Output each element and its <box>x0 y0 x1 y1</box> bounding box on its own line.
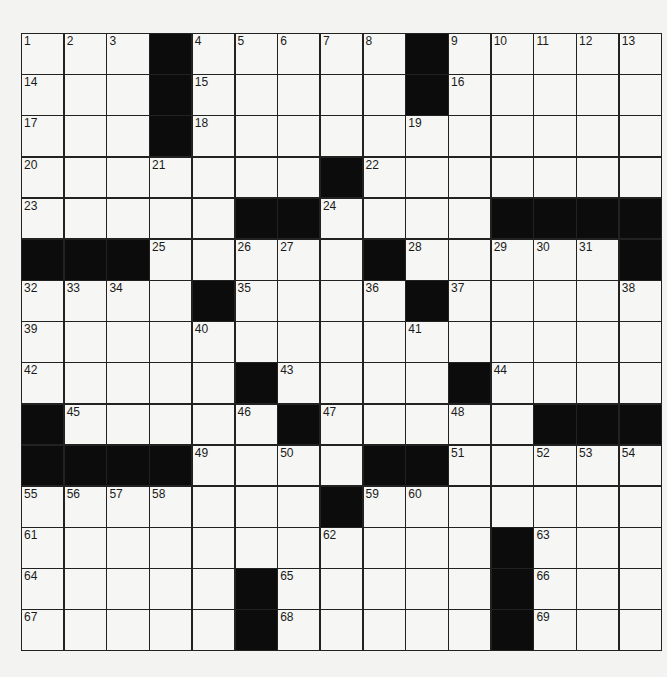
crossword-cell[interactable] <box>321 363 362 403</box>
crossword-cell[interactable] <box>321 610 362 650</box>
crossword-cell[interactable] <box>278 158 319 198</box>
crossword-cell[interactable]: 52 <box>534 446 575 486</box>
crossword-cell[interactable] <box>236 528 277 568</box>
crossword-cell[interactable] <box>65 158 106 198</box>
crossword-cell[interactable] <box>107 158 148 198</box>
crossword-cell[interactable]: 11 <box>534 34 575 74</box>
crossword-cell[interactable] <box>577 75 618 115</box>
crossword-cell[interactable]: 16 <box>449 75 490 115</box>
crossword-cell[interactable]: 43 <box>278 363 319 403</box>
crossword-cell[interactable]: 2 <box>65 34 106 74</box>
crossword-cell[interactable] <box>107 405 148 445</box>
crossword-cell[interactable] <box>107 322 148 362</box>
crossword-cell[interactable] <box>150 363 191 403</box>
crossword-cell[interactable] <box>492 322 533 362</box>
crossword-cell[interactable]: 45 <box>65 405 106 445</box>
crossword-cell[interactable] <box>193 487 234 527</box>
crossword-cell[interactable] <box>492 158 533 198</box>
crossword-cell[interactable] <box>364 569 405 609</box>
crossword-cell[interactable] <box>278 116 319 156</box>
crossword-cell[interactable] <box>193 569 234 609</box>
crossword-cell[interactable] <box>449 116 490 156</box>
crossword-cell[interactable]: 66 <box>534 569 575 609</box>
crossword-cell[interactable]: 63 <box>534 528 575 568</box>
crossword-cell[interactable] <box>278 322 319 362</box>
crossword-cell[interactable]: 31 <box>577 240 618 280</box>
crossword-cell[interactable]: 19 <box>406 116 447 156</box>
crossword-cell[interactable] <box>107 116 148 156</box>
crossword-cell[interactable] <box>577 281 618 321</box>
crossword-cell[interactable]: 37 <box>449 281 490 321</box>
crossword-cell[interactable] <box>364 363 405 403</box>
crossword-cell[interactable]: 36 <box>364 281 405 321</box>
crossword-cell[interactable] <box>193 199 234 239</box>
crossword-cell[interactable] <box>534 116 575 156</box>
crossword-cell[interactable] <box>193 405 234 445</box>
crossword-cell[interactable] <box>577 322 618 362</box>
crossword-cell[interactable] <box>620 487 661 527</box>
crossword-cell[interactable] <box>449 569 490 609</box>
crossword-cell[interactable] <box>193 363 234 403</box>
crossword-cell[interactable]: 20 <box>22 158 63 198</box>
crossword-cell[interactable]: 49 <box>193 446 234 486</box>
crossword-cell[interactable]: 30 <box>534 240 575 280</box>
crossword-cell[interactable] <box>577 487 618 527</box>
crossword-cell[interactable]: 18 <box>193 116 234 156</box>
crossword-cell[interactable] <box>236 446 277 486</box>
crossword-cell[interactable] <box>492 281 533 321</box>
crossword-cell[interactable]: 41 <box>406 322 447 362</box>
crossword-cell[interactable] <box>193 158 234 198</box>
crossword-cell[interactable]: 5 <box>236 34 277 74</box>
crossword-cell[interactable] <box>449 158 490 198</box>
crossword-cell[interactable]: 44 <box>492 363 533 403</box>
crossword-cell[interactable] <box>406 363 447 403</box>
crossword-cell[interactable] <box>107 199 148 239</box>
crossword-cell[interactable] <box>236 116 277 156</box>
crossword-cell[interactable] <box>406 405 447 445</box>
crossword-cell[interactable]: 60 <box>406 487 447 527</box>
crossword-cell[interactable]: 23 <box>22 199 63 239</box>
crossword-cell[interactable]: 51 <box>449 446 490 486</box>
crossword-cell[interactable]: 40 <box>193 322 234 362</box>
crossword-cell[interactable]: 3 <box>107 34 148 74</box>
crossword-cell[interactable] <box>577 363 618 403</box>
crossword-cell[interactable] <box>492 405 533 445</box>
crossword-cell[interactable] <box>65 528 106 568</box>
crossword-cell[interactable] <box>150 281 191 321</box>
crossword-cell[interactable] <box>577 158 618 198</box>
crossword-cell[interactable] <box>65 569 106 609</box>
crossword-cell[interactable]: 9 <box>449 34 490 74</box>
crossword-cell[interactable] <box>65 75 106 115</box>
crossword-cell[interactable] <box>577 528 618 568</box>
crossword-cell[interactable]: 29 <box>492 240 533 280</box>
crossword-cell[interactable] <box>534 322 575 362</box>
crossword-cell[interactable]: 12 <box>577 34 618 74</box>
crossword-cell[interactable] <box>449 487 490 527</box>
crossword-cell[interactable]: 13 <box>620 34 661 74</box>
crossword-cell[interactable] <box>321 322 362 362</box>
crossword-cell[interactable] <box>492 116 533 156</box>
crossword-cell[interactable] <box>150 528 191 568</box>
crossword-cell[interactable] <box>406 528 447 568</box>
crossword-cell[interactable] <box>620 363 661 403</box>
crossword-cell[interactable] <box>321 281 362 321</box>
crossword-cell[interactable] <box>534 363 575 403</box>
crossword-cell[interactable]: 46 <box>236 405 277 445</box>
crossword-cell[interactable]: 50 <box>278 446 319 486</box>
crossword-cell[interactable] <box>278 528 319 568</box>
crossword-cell[interactable]: 68 <box>278 610 319 650</box>
crossword-cell[interactable] <box>107 75 148 115</box>
crossword-cell[interactable]: 35 <box>236 281 277 321</box>
crossword-cell[interactable] <box>364 75 405 115</box>
crossword-cell[interactable] <box>321 75 362 115</box>
crossword-cell[interactable]: 69 <box>534 610 575 650</box>
crossword-cell[interactable] <box>449 240 490 280</box>
crossword-cell[interactable] <box>492 75 533 115</box>
crossword-cell[interactable] <box>65 116 106 156</box>
crossword-cell[interactable] <box>193 240 234 280</box>
crossword-cell[interactable] <box>577 610 618 650</box>
crossword-cell[interactable] <box>492 487 533 527</box>
crossword-cell[interactable]: 56 <box>65 487 106 527</box>
crossword-cell[interactable] <box>236 322 277 362</box>
crossword-cell[interactable]: 47 <box>321 405 362 445</box>
